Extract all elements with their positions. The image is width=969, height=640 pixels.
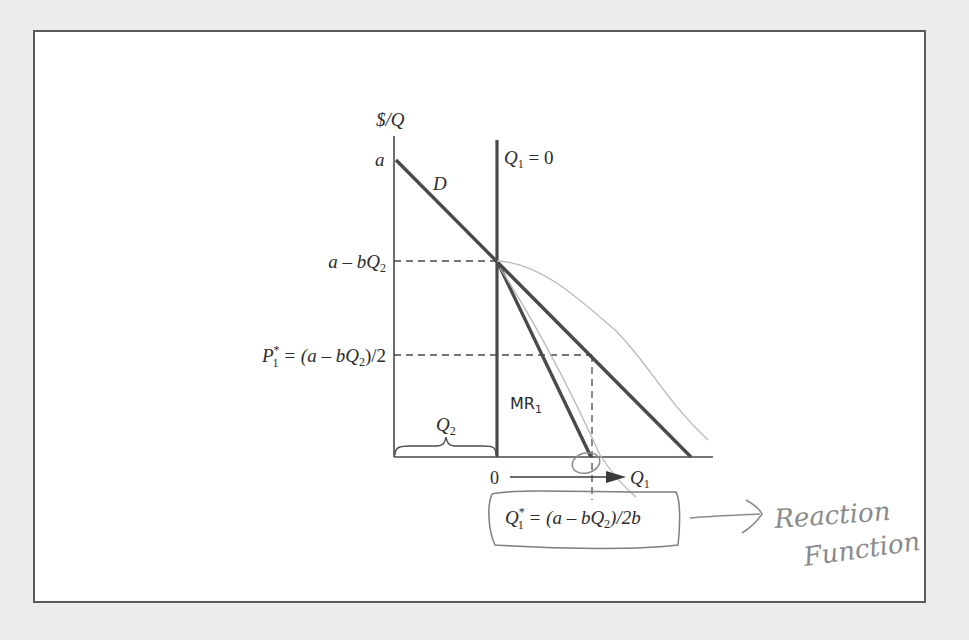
label-pstar: P*1 = (a – bQ2)/2 bbox=[261, 343, 386, 370]
mr1-line bbox=[497, 261, 591, 457]
handwritten-reaction: Reaction bbox=[772, 496, 891, 534]
pencil-arrow-shaft bbox=[690, 514, 760, 518]
label-mr1: MR1 bbox=[510, 394, 542, 416]
handwritten-function: Function bbox=[801, 526, 922, 572]
pencil-arrow-head-icon bbox=[742, 500, 762, 533]
label-demand: D bbox=[432, 173, 447, 194]
y-axis-label: $/Q bbox=[376, 109, 405, 130]
label-q2-brace: Q2 bbox=[436, 414, 456, 438]
label-qstar-formula: Q*1 = (a – bQ2)/2b bbox=[505, 505, 641, 532]
pencil-circle-qstar bbox=[570, 450, 602, 477]
label-a-minus-bq2: a – bQ2 bbox=[328, 251, 386, 275]
label-a: a bbox=[375, 149, 385, 170]
q2-brace bbox=[395, 437, 496, 455]
pencil-demand-curve bbox=[497, 261, 708, 440]
label-origin-zero: 0 bbox=[490, 468, 499, 488]
arrow-head-icon bbox=[606, 471, 626, 483]
label-q1-axis: Q1 bbox=[630, 467, 650, 491]
cournot-diagram: $/Q a D Q1 = 0 a – bQ2 P*1 = (a – bQ2)/2… bbox=[0, 0, 969, 640]
label-q1-zero: Q1 = 0 bbox=[504, 147, 553, 171]
demand-line bbox=[396, 160, 691, 457]
